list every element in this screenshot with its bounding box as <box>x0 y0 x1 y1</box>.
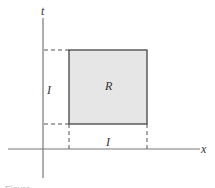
y-axis-label: t <box>41 4 45 18</box>
x-axis-label: x <box>200 142 207 156</box>
vertical-interval-label: I <box>46 83 52 97</box>
horizontal-interval-label: I <box>105 135 111 149</box>
diagram-canvas: t x R I I Figure <box>0 0 215 188</box>
region-label: R <box>104 79 113 93</box>
figure-caption: Figure <box>5 184 31 188</box>
